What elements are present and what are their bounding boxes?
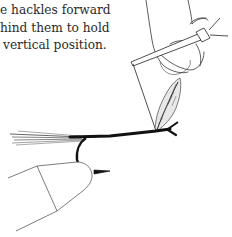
tool-icon — [131, 18, 228, 66]
vise-jaws-icon — [8, 162, 110, 231]
thread-line — [133, 64, 156, 131]
document-page: e hackles forward hind them to hold vert… — [0, 0, 232, 237]
hook-icon — [10, 122, 178, 162]
fly-tying-illustration — [0, 0, 232, 237]
